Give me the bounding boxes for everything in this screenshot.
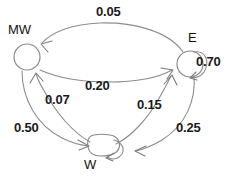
node-label-mw: MW [8,22,31,37]
edge-mw-to-w [22,71,89,150]
edge-weight-w-to-e: 0.15 [137,97,162,112]
edge-weight-w-to-mw: 0.07 [45,92,70,107]
node-w-shape [88,134,120,156]
edge-weight-e-to-mw: 0.05 [96,4,121,19]
edge-w-to-mw-path [36,74,90,142]
graph-svg [0,0,233,181]
node-label-w: W [84,157,96,172]
edge-e-to-mw-path [42,23,183,52]
edge-weight-e-self-loop: 0.70 [196,54,221,69]
edge-w-to-e-arrowhead [164,75,177,85]
node-mw[interactable] [14,44,40,70]
edge-w-to-mw [30,73,90,142]
edge-weight-mw-to-w: 0.50 [14,120,39,135]
diagram-canvas: MW E W 0.05 0.70 0.20 0.07 0.15 0.50 0.2… [0,0,233,181]
edge-weight-mw-to-e: 0.20 [85,78,110,93]
edge-e-to-mw [41,23,183,52]
edge-weight-e-to-w: 0.25 [176,120,201,135]
edge-mw-to-e-arrowhead [161,68,173,79]
node-label-e: E [188,30,197,45]
node-mw-circle [14,44,40,70]
node-w-self-loop-arrowhead [106,153,114,161]
